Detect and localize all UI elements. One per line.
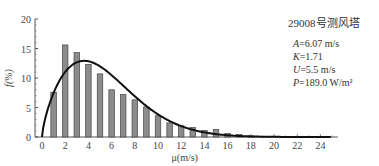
x-tick-label: 14 bbox=[199, 140, 209, 151]
x-tick-label: 16 bbox=[223, 140, 233, 151]
x-tick-label: 0 bbox=[40, 140, 45, 151]
histogram-bar bbox=[167, 123, 173, 137]
histogram-bar bbox=[109, 90, 115, 137]
histogram-bar bbox=[132, 100, 138, 137]
x-tick-label: 20 bbox=[269, 140, 279, 151]
weibull-parameters: A=6.07 m/s K=1.71 U=5.5 m/s P=189.0 W/m² bbox=[293, 37, 353, 89]
param-a: A=6.07 m/s bbox=[293, 37, 353, 50]
histogram-bar bbox=[62, 45, 67, 137]
x-tick-label: 6 bbox=[109, 140, 114, 151]
histogram-bar bbox=[155, 116, 161, 137]
histogram-bar bbox=[86, 64, 92, 137]
x-tick-label: 8 bbox=[132, 140, 137, 151]
y-tick-label: 10 bbox=[21, 73, 31, 84]
chart-title: 29008号测风塔 bbox=[288, 14, 360, 30]
y-tick-label: 20 bbox=[21, 14, 31, 25]
y-tick-label: 5 bbox=[26, 103, 31, 114]
x-tick-label: 12 bbox=[176, 140, 186, 151]
x-tick-label: 18 bbox=[246, 140, 256, 151]
x-tick-label: 10 bbox=[153, 140, 163, 151]
y-axis-label: f(%) bbox=[3, 68, 15, 86]
histogram-bar bbox=[120, 95, 126, 137]
y-tick-label: 15 bbox=[21, 44, 31, 55]
x-tick-label: 2 bbox=[63, 140, 68, 151]
x-axis-label: μ(m/s) bbox=[171, 152, 197, 164]
histogram-bar bbox=[74, 53, 80, 137]
x-tick-label: 24 bbox=[315, 140, 325, 151]
histogram-bar bbox=[144, 107, 150, 137]
param-p: P=189.0 W/m² bbox=[293, 76, 353, 89]
x-tick-label: 22 bbox=[292, 140, 302, 151]
y-tick-label: 0 bbox=[26, 132, 31, 143]
x-tick-label: 4 bbox=[86, 140, 91, 151]
histogram-bar bbox=[97, 74, 103, 137]
param-k: K=1.71 bbox=[293, 50, 353, 63]
param-u: U=5.5 m/s bbox=[293, 63, 353, 76]
